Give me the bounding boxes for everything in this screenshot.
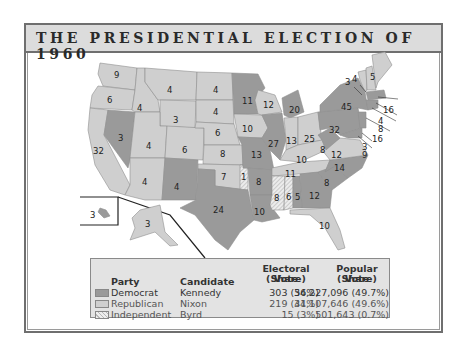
party-label: Independent: [111, 309, 171, 320]
popular-value: 501,643 (0.7%): [315, 309, 389, 320]
ev-massachusetts: 16: [383, 105, 394, 115]
ev-oklahoma-byrd: 1: [241, 172, 246, 182]
party-label: Republican: [111, 298, 163, 309]
ev-oregon: 6: [107, 95, 112, 105]
ev-nebraska: 6: [215, 128, 220, 138]
ev-west-virginia: 8: [320, 145, 325, 155]
ev-arizona: 4: [142, 177, 147, 187]
independent-swatch: [95, 311, 109, 319]
ev-oklahoma: 7: [221, 172, 226, 182]
state-massachusetts: [366, 90, 386, 100]
ev-wyoming: 3: [173, 115, 178, 125]
ev-kentucky: 10: [296, 155, 307, 165]
ev-alabama-byrd: 6: [286, 192, 291, 202]
ev-vermont: 3: [345, 77, 350, 87]
democrat-swatch: [95, 289, 109, 297]
popular-value: 34,227,096 (49.7%): [294, 287, 389, 298]
ev-south-dakota: 4: [213, 107, 218, 117]
ev-idaho: 4: [137, 103, 142, 113]
ev-wisconsin: 12: [263, 100, 274, 110]
ev-montana: 4: [167, 85, 172, 95]
state-alaska: [130, 205, 178, 246]
electoral-value: 15 (3%): [281, 309, 319, 320]
ev-maine: 5: [370, 72, 375, 82]
ev-indiana: 13: [286, 136, 297, 146]
ev-new-hampshire: 4: [352, 74, 357, 84]
state-connecticut: [366, 100, 378, 110]
ev-minnesota: 11: [242, 96, 253, 106]
ev-virginia: 12: [331, 150, 342, 160]
candidate-label: Nixon: [180, 298, 207, 309]
ev-louisiana: 10: [254, 207, 265, 217]
ev-washington: 9: [114, 70, 119, 80]
ev-alabama: 5: [295, 192, 300, 202]
candidate-label: Byrd: [180, 309, 202, 320]
popular-value: 34,107,646 (49.6%): [294, 298, 389, 309]
header-candidate: Candidate: [180, 277, 240, 287]
ev-north-carolina: 14: [334, 163, 345, 173]
ev-new-mexico: 4: [174, 182, 179, 192]
state-florida: [290, 208, 345, 250]
ev-missouri: 13: [251, 150, 262, 160]
ev-arkansas: 8: [256, 177, 261, 187]
ev-north-dakota: 4: [213, 85, 218, 95]
party-label: Democrat: [111, 287, 158, 298]
state-new-mexico: [162, 158, 198, 200]
ev-florida: 10: [319, 221, 330, 231]
ev-hawaii: 3: [90, 210, 95, 220]
ev-pennsylvania: 32: [329, 125, 340, 135]
ev-connecticut: 8: [378, 124, 383, 134]
ev-california: 32: [93, 146, 104, 156]
legend-row-independent: Independent Byrd 15 (3%) 501,643 (0.7%): [91, 309, 391, 321]
ev-mississippi: 8: [274, 193, 279, 203]
ev-michigan: 20: [289, 105, 300, 115]
ev-south-carolina: 8: [324, 178, 329, 188]
state-oregon: [90, 86, 135, 110]
candidate-label: Kennedy: [180, 287, 221, 298]
ev-utah: 4: [146, 141, 151, 151]
header-popular-line2: (Share): [323, 274, 391, 284]
ev-ohio: 25: [304, 134, 315, 144]
ev-georgia: 12: [309, 191, 320, 201]
header-party: Party: [111, 277, 171, 287]
ev-illinois: 27: [268, 139, 279, 149]
ev-tennessee: 11: [285, 169, 296, 179]
ev-texas: 24: [213, 205, 224, 215]
ev-maryland: 9: [362, 150, 367, 160]
ev-iowa: 10: [242, 124, 253, 134]
ev-kansas: 8: [220, 149, 225, 159]
ev-colorado: 6: [182, 145, 187, 155]
ev-nevada: 3: [118, 133, 123, 143]
legend-table: Party Candidate Electoral Vote (Share) P…: [90, 258, 390, 318]
ev-new-jersey: 16: [372, 134, 383, 144]
state-hawaii: [98, 208, 110, 218]
republican-swatch: [95, 300, 109, 308]
header-electoral-line2: (Share): [251, 274, 321, 284]
ev-alaska: 3: [145, 219, 150, 229]
ev-new-york: 45: [341, 102, 352, 112]
